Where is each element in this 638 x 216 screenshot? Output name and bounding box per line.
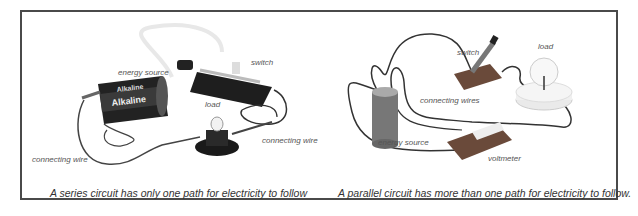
label-switch: switch: [457, 48, 479, 57]
parallel-circuit-panel: switch load connecting wires energy sour…: [322, 12, 618, 198]
label-connecting-wire-left: connecting wire: [32, 155, 88, 164]
label-switch: switch: [251, 58, 273, 67]
label-connecting-wire-right: connecting wire: [262, 136, 318, 145]
parallel-caption: A parallel circuit has more than one pat…: [338, 187, 631, 199]
label-energy-source: energy source: [118, 68, 169, 77]
knife-switch-icon: [454, 35, 502, 90]
figure-frame: Alkaline Alkaline: [20, 10, 618, 200]
bulb-load-icon: [516, 58, 572, 110]
label-connecting-wires: connecting wires: [420, 96, 480, 105]
knife-switch-icon: [177, 60, 272, 107]
label-load: load: [205, 100, 220, 109]
bulb-load-icon: [195, 117, 239, 156]
battery-icon: Alkaline Alkaline: [98, 76, 168, 124]
series-circuit-panel: Alkaline Alkaline: [22, 12, 322, 198]
label-voltmeter: voltmeter: [488, 154, 521, 163]
label-energy-source: energy source: [378, 138, 429, 147]
label-load: load: [538, 42, 553, 51]
series-caption: A series circuit has only one path for e…: [50, 187, 307, 199]
